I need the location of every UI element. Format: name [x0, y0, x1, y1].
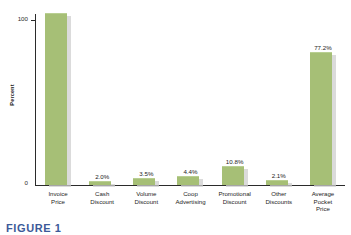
- x-category-label-line: Pocket: [295, 198, 351, 206]
- bar-wrapper: [45, 14, 71, 185]
- bar-wrapper: [310, 53, 336, 185]
- bar-group: 10.8%: [213, 14, 257, 185]
- bar-value-label: 2.0%: [95, 173, 109, 180]
- y-tick-label-0: 0: [6, 179, 28, 186]
- x-category-label: AveragePocketPrice: [295, 190, 351, 213]
- bar-value-label: 10.8%: [226, 158, 244, 165]
- bar-wrapper: [89, 182, 115, 185]
- bar-wrapper: [266, 181, 292, 185]
- bar-group: 2.1%: [257, 14, 301, 185]
- bar-value-label: 3.5%: [139, 170, 153, 177]
- bar-wrapper: [222, 167, 248, 185]
- bar-group: 2.0%: [80, 14, 124, 185]
- bar-group: 4.4%: [168, 14, 212, 185]
- bar-average-pocket-price[interactable]: [310, 52, 332, 185]
- bar-wrapper: [133, 179, 159, 185]
- plot-area: 2.0%3.5%4.4%10.8%2.1%77.2%: [36, 14, 345, 185]
- x-category-label-line: Price: [295, 205, 351, 213]
- bar-cash-discount[interactable]: [89, 181, 111, 185]
- y-axis-title: Percent: [9, 65, 15, 125]
- bar-group: [36, 14, 80, 185]
- figure-caption: FIGURE 1: [6, 222, 62, 234]
- x-category-label-line: Average: [295, 190, 351, 198]
- bar-value-label: 2.1%: [272, 172, 286, 179]
- bar-group: 3.5%: [124, 14, 168, 185]
- y-tick-label-100: 100: [6, 15, 28, 22]
- bar-volume-discount[interactable]: [133, 178, 155, 185]
- figure-container: Percent 100 0 2.0%3.5%4.4%10.8%2.1%77.2%…: [0, 0, 351, 235]
- bar-promotional-discount[interactable]: [222, 166, 244, 185]
- bar-value-label: 4.4%: [183, 168, 197, 175]
- bar-group: 77.2%: [301, 14, 345, 185]
- bar-coop-advertising[interactable]: [177, 176, 199, 185]
- bar-other-discounts[interactable]: [266, 180, 288, 185]
- bar-value-label: 77.2%: [314, 44, 332, 51]
- bar-invoice-price[interactable]: [45, 13, 67, 185]
- bar-wrapper: [177, 177, 203, 185]
